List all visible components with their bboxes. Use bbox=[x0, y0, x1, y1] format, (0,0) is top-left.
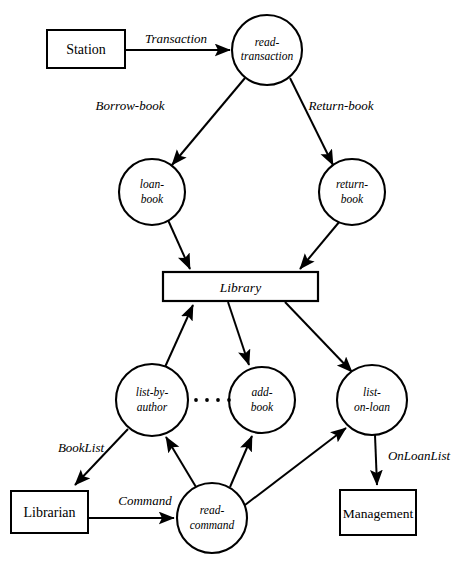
ellipsis-dot bbox=[194, 398, 198, 402]
external-entity-librarian-label: Librarian bbox=[23, 505, 75, 520]
process-return-book-label-line2: book bbox=[341, 193, 364, 205]
process-return-book: return- book bbox=[319, 159, 385, 225]
flow-library-to-list-on-loan bbox=[285, 302, 352, 372]
process-read-transaction-label-line1: read- bbox=[255, 36, 280, 48]
process-list-on-loan-circle bbox=[337, 365, 407, 435]
process-add-book: add- book bbox=[229, 367, 295, 433]
process-list-by-author-label-line2: author bbox=[137, 401, 168, 413]
external-entity-station-label: Station bbox=[66, 42, 106, 57]
process-read-transaction-label-line2: transaction bbox=[241, 50, 294, 62]
ellipsis-dot bbox=[216, 398, 220, 402]
process-loan-book-circle bbox=[119, 159, 185, 225]
flow-loan-book-to-library bbox=[168, 220, 190, 269]
process-return-book-label-line1: return- bbox=[336, 178, 368, 190]
flow-label-borrow-book: Borrow-book bbox=[96, 98, 165, 113]
process-list-by-author-label-line1: list-by- bbox=[136, 386, 169, 399]
dfd-canvas: Library Station Librarian Management rea… bbox=[0, 0, 466, 564]
process-loan-book-label-line2: book bbox=[141, 193, 164, 205]
process-list-by-author-circle bbox=[116, 364, 188, 436]
flow-read-command-to-add-book bbox=[230, 436, 252, 487]
process-list-on-loan-label-line2: on-loan bbox=[354, 401, 390, 413]
flow-list-by-author-to-library bbox=[165, 305, 193, 367]
data-store-library: Library bbox=[163, 272, 318, 301]
process-read-command-label-line2: command bbox=[190, 519, 235, 531]
flow-list-by-author-to-librarian bbox=[75, 429, 128, 485]
flow-list-on-loan-to-management bbox=[375, 435, 377, 485]
process-read-command-circle bbox=[177, 483, 247, 553]
flow-read-transaction-to-return-book bbox=[290, 78, 333, 165]
process-add-book-label-line1: add- bbox=[251, 386, 272, 398]
external-entity-station: Station bbox=[47, 30, 125, 68]
process-list-on-loan: list- on-loan bbox=[337, 365, 407, 435]
process-list-by-author: list-by- author bbox=[116, 364, 188, 436]
flow-label-booklist: BookList bbox=[58, 440, 105, 455]
flow-read-command-to-list-on-loan bbox=[245, 428, 346, 505]
process-add-book-label-line2: book bbox=[251, 401, 274, 413]
flow-label-return-book: Return-book bbox=[308, 98, 374, 113]
flow-read-transaction-to-loan-book bbox=[172, 78, 245, 165]
process-read-command: read- command bbox=[177, 483, 247, 553]
flow-read-command-to-list-by-author bbox=[166, 437, 196, 487]
flow-return-book-to-library bbox=[300, 221, 340, 269]
flow-library-to-add-book bbox=[228, 302, 249, 365]
process-read-transaction: read- transaction bbox=[232, 15, 302, 85]
external-entity-management: Management bbox=[340, 490, 416, 535]
process-ellipsis bbox=[194, 398, 231, 402]
data-flow-diagram: Library Station Librarian Management rea… bbox=[0, 0, 466, 564]
external-entity-librarian: Librarian bbox=[11, 491, 88, 533]
process-add-book-circle bbox=[229, 367, 295, 433]
flow-label-command: Command bbox=[118, 493, 172, 508]
flow-label-transaction: Transaction bbox=[145, 31, 207, 46]
process-loan-book: loan- book bbox=[119, 159, 185, 225]
process-read-command-label-line1: read- bbox=[200, 504, 225, 516]
process-list-on-loan-label-line1: list- bbox=[363, 386, 381, 398]
ellipsis-dot bbox=[227, 398, 231, 402]
data-store-library-label: Library bbox=[219, 280, 261, 295]
ellipsis-dot bbox=[205, 398, 209, 402]
process-loan-book-label-line1: loan- bbox=[140, 178, 164, 190]
external-entity-management-label: Management bbox=[343, 506, 414, 521]
process-return-book-circle bbox=[319, 159, 385, 225]
flow-label-onloanlist: OnLoanList bbox=[388, 448, 451, 463]
